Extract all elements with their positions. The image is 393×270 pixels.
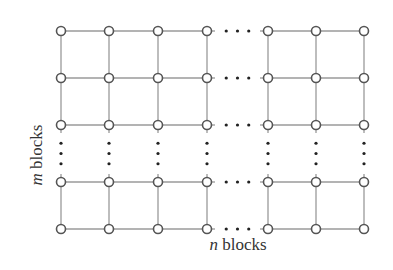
- grid-node: [105, 74, 114, 83]
- vertical-ellipsis-dot: [59, 142, 62, 145]
- grid-nodes: [57, 27, 369, 234]
- ellipsis-dots: [59, 29, 365, 230]
- horizontal-ellipsis-dot: [225, 29, 228, 32]
- horizontal-ellipsis-dot: [236, 123, 239, 126]
- grid-node: [57, 121, 66, 130]
- grid-node: [203, 27, 212, 36]
- grid-node: [57, 178, 66, 187]
- grid-node: [312, 74, 321, 83]
- grid-node: [154, 74, 163, 83]
- horizontal-ellipsis-dot: [225, 180, 228, 183]
- grid-node: [312, 178, 321, 187]
- horizontal-ellipsis-dot: [236, 180, 239, 183]
- horizontal-ellipsis-dot: [247, 180, 250, 183]
- grid-node: [264, 74, 273, 83]
- vertical-ellipsis-dot: [362, 162, 365, 165]
- grid-node: [312, 27, 321, 36]
- horizontal-ellipsis-dot: [236, 76, 239, 79]
- vertical-ellipsis-dot: [59, 152, 62, 155]
- vertical-ellipsis-dot: [362, 142, 365, 145]
- grid-edges: [61, 31, 364, 229]
- row-count-variable: m: [27, 173, 46, 185]
- vertical-ellipsis-dot: [266, 152, 269, 155]
- vertical-ellipsis-dot: [266, 162, 269, 165]
- vertical-ellipsis-dot: [107, 162, 110, 165]
- column-count-text: blocks: [218, 235, 267, 254]
- horizontal-ellipsis-dot: [225, 123, 228, 126]
- grid-node: [360, 27, 369, 36]
- vertical-ellipsis-dot: [107, 152, 110, 155]
- vertical-ellipsis-dot: [205, 162, 208, 165]
- grid-node: [203, 225, 212, 234]
- grid-node: [105, 225, 114, 234]
- horizontal-ellipsis-dot: [247, 227, 250, 230]
- vertical-ellipsis-dot: [156, 142, 159, 145]
- grid-node: [360, 225, 369, 234]
- grid-node: [203, 121, 212, 130]
- row-count-label: m blocks: [27, 125, 46, 186]
- grid-node: [203, 178, 212, 187]
- vertical-ellipsis-dot: [314, 142, 317, 145]
- grid-node: [154, 121, 163, 130]
- grid-node: [203, 74, 212, 83]
- grid-node: [154, 178, 163, 187]
- vertical-ellipsis-dot: [59, 162, 62, 165]
- horizontal-ellipsis-dot: [225, 227, 228, 230]
- vertical-ellipsis-dot: [156, 152, 159, 155]
- grid-node: [105, 178, 114, 187]
- grid-node: [264, 225, 273, 234]
- grid-node: [360, 74, 369, 83]
- vertical-ellipsis-dot: [205, 152, 208, 155]
- vertical-ellipsis-dot: [314, 162, 317, 165]
- grid-node: [57, 74, 66, 83]
- vertical-ellipsis-dot: [107, 142, 110, 145]
- grid-node: [105, 27, 114, 36]
- grid-node: [57, 225, 66, 234]
- horizontal-ellipsis-dot: [236, 227, 239, 230]
- grid-diagram: m blocks n blocks: [0, 0, 393, 270]
- grid-node: [360, 178, 369, 187]
- column-count-variable: n: [209, 235, 218, 254]
- horizontal-ellipsis-dot: [247, 123, 250, 126]
- horizontal-ellipsis-dot: [247, 29, 250, 32]
- vertical-ellipsis-dot: [266, 142, 269, 145]
- grid-node: [154, 225, 163, 234]
- grid-node: [360, 121, 369, 130]
- vertical-ellipsis-dot: [205, 142, 208, 145]
- grid-node: [57, 27, 66, 36]
- horizontal-ellipsis-dot: [247, 76, 250, 79]
- grid-node: [264, 178, 273, 187]
- grid-node: [312, 225, 321, 234]
- vertical-ellipsis-dot: [156, 162, 159, 165]
- column-count-label: n blocks: [209, 235, 266, 254]
- vertical-ellipsis-dot: [362, 152, 365, 155]
- grid-node: [105, 121, 114, 130]
- grid-node: [264, 27, 273, 36]
- horizontal-ellipsis-dot: [225, 76, 228, 79]
- vertical-ellipsis-dot: [314, 152, 317, 155]
- grid-node: [312, 121, 321, 130]
- row-count-text: blocks: [27, 125, 46, 174]
- grid-node: [264, 121, 273, 130]
- grid-node: [154, 27, 163, 36]
- horizontal-ellipsis-dot: [236, 29, 239, 32]
